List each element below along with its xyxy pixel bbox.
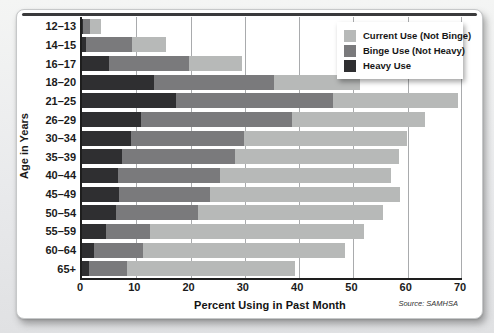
age-label: 12–13 — [31, 19, 76, 34]
age-label: 50–54 — [31, 205, 76, 220]
legend-item-heavy: Heavy Use — [344, 59, 463, 72]
legend-item-current: Current Use (Not Binge) — [344, 29, 463, 42]
bar-row — [82, 168, 462, 183]
x-tick-label: 10 — [119, 281, 149, 293]
bar-segment-heavy — [82, 205, 116, 220]
figure-top-rule — [22, 13, 477, 16]
bar-segment-current — [90, 19, 101, 34]
legend-label-heavy: Heavy Use — [363, 60, 411, 71]
x-tick-label: 60 — [391, 281, 421, 293]
x-axis-title-row: Percent Using in Past Month Source: SAMH… — [80, 295, 460, 310]
bar-segment-binge — [131, 131, 244, 146]
bar-row — [82, 131, 462, 146]
bar-segment-current — [127, 261, 296, 276]
bar-segment-heavy — [82, 56, 109, 71]
bar-row — [82, 112, 462, 127]
age-label: 55–59 — [31, 224, 76, 239]
age-label: 18–20 — [31, 75, 76, 90]
bar-segment-heavy — [82, 131, 131, 146]
bar-segment-current — [189, 56, 242, 71]
y-axis-labels: 12–1314–1516–1718–2021–2526–2930–3435–39… — [31, 17, 76, 278]
bar-segment-binge — [106, 224, 150, 239]
bar-segment-current — [235, 149, 399, 164]
bar-segment-binge — [94, 243, 143, 258]
bar-segment-heavy — [82, 149, 122, 164]
legend: Current Use (Not Binge) Binge Use (Not H… — [337, 22, 463, 79]
legend-swatch-heavy — [344, 60, 356, 72]
x-tick-label: 20 — [174, 281, 204, 293]
bar-segment-heavy — [82, 112, 141, 127]
bar-segment-binge — [119, 187, 210, 202]
bar-segment-current — [244, 131, 407, 146]
age-label: 21–25 — [31, 93, 76, 108]
x-tick-label: 50 — [336, 281, 366, 293]
bar-segment-binge — [141, 112, 292, 127]
bar-segment-heavy — [82, 75, 154, 90]
bar-segment-binge — [109, 56, 189, 71]
bar-segment-current — [132, 37, 166, 52]
bar-segment-heavy — [82, 93, 176, 108]
bar-row — [82, 187, 462, 202]
bar-segment-binge — [83, 19, 90, 34]
bar-row — [82, 205, 462, 220]
bar-row — [82, 224, 462, 239]
bar-segment-current — [143, 243, 345, 258]
y-axis-title: Age in Years — [18, 86, 32, 206]
bar-segment-current — [210, 187, 401, 202]
bar-row — [82, 149, 462, 164]
bar-segment-binge — [86, 37, 132, 52]
legend-label-current: Current Use (Not Binge) — [363, 30, 471, 41]
bar-segment-current — [198, 205, 384, 220]
source-note: Source: SAMHSA — [398, 299, 458, 308]
age-label: 45–49 — [31, 187, 76, 202]
age-label: 60–64 — [31, 243, 76, 258]
age-label: 30–34 — [31, 131, 76, 146]
legend-swatch-binge — [344, 45, 356, 57]
bar-row — [82, 243, 462, 258]
x-tick-label: 40 — [282, 281, 312, 293]
bar-segment-heavy — [82, 168, 118, 183]
bar-segment-current — [333, 93, 458, 108]
x-axis-tick-labels: 010203040506070 — [80, 281, 460, 294]
bar-segment-binge — [118, 168, 220, 183]
bar-segment-binge — [176, 93, 333, 108]
x-tick-label: 30 — [228, 281, 258, 293]
age-label: 14–15 — [31, 37, 76, 52]
x-tick-label: 70 — [445, 281, 475, 293]
age-label: 65+ — [31, 261, 76, 276]
bar-segment-current — [150, 224, 364, 239]
bar-segment-current — [220, 168, 391, 183]
bar-segment-current — [292, 112, 424, 127]
figure-card: Age in Years 12–1314–1516–1718–2021–2526… — [16, 9, 483, 319]
age-label: 16–17 — [31, 56, 76, 71]
bar-segment-heavy — [82, 261, 89, 276]
legend-label-binge: Binge Use (Not Heavy) — [363, 45, 465, 56]
bar-segment-heavy — [82, 224, 106, 239]
legend-item-binge: Binge Use (Not Heavy) — [344, 44, 463, 57]
bar-segment-heavy — [82, 243, 94, 258]
age-label: 40–44 — [31, 168, 76, 183]
bar-segment-heavy — [82, 187, 119, 202]
legend-swatch-current — [344, 30, 356, 42]
age-label: 35–39 — [31, 149, 76, 164]
x-axis-title: Percent Using in Past Month — [194, 299, 346, 311]
bar-row — [82, 261, 462, 276]
bar-segment-binge — [116, 205, 197, 220]
bar-row — [82, 93, 462, 108]
x-tick-label: 0 — [65, 281, 95, 293]
age-label: 26–29 — [31, 112, 76, 127]
bar-segment-binge — [154, 75, 274, 90]
bar-segment-binge — [89, 261, 126, 276]
bar-segment-binge — [122, 149, 235, 164]
